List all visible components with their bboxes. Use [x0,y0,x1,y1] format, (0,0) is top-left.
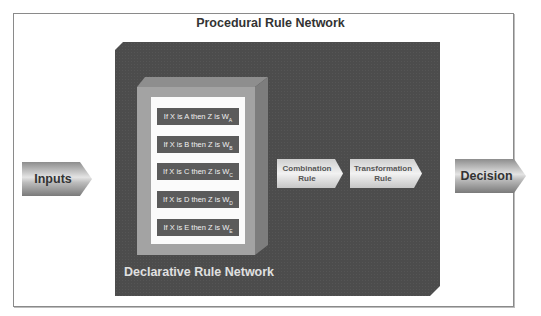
rule-b: If X is B then Z is WB [157,136,239,153]
rule-d: If X is D then Z is WD [157,191,239,208]
rule-text: If X is C then Z is W [163,167,229,176]
rule-subscript: C [229,172,233,178]
combination-rule-arrow: Combination Rule [277,159,343,188]
rule-subscript: A [229,117,232,123]
rule-text: If X is A then Z is W [164,112,229,121]
rule-text: If X is B then Z is W [163,140,229,149]
rule-subscript: E [229,228,232,234]
decision-arrow: Decision [455,159,526,193]
rule-a: If X is A then Z is WA [157,108,239,125]
rule-c: If X is C then Z is WC [157,163,239,180]
rule-text: If X is D then Z is W [163,195,229,204]
rule-subscript: D [229,200,233,206]
declarative-box-right-bevel [255,77,268,255]
declarative-box-top-bevel [137,77,268,87]
declarative-network-label: Declarative Rule Network [124,265,274,279]
inputs-arrow: Inputs [22,162,92,196]
transformation-rule-arrow: Transformation Rule [350,159,422,188]
rule-e: If X is E then Z is WE [157,219,239,236]
diagram-title: Procedural Rule Network [0,16,541,30]
rule-subscript: B [229,145,232,151]
rule-text: If X is E then Z is W [163,223,229,232]
